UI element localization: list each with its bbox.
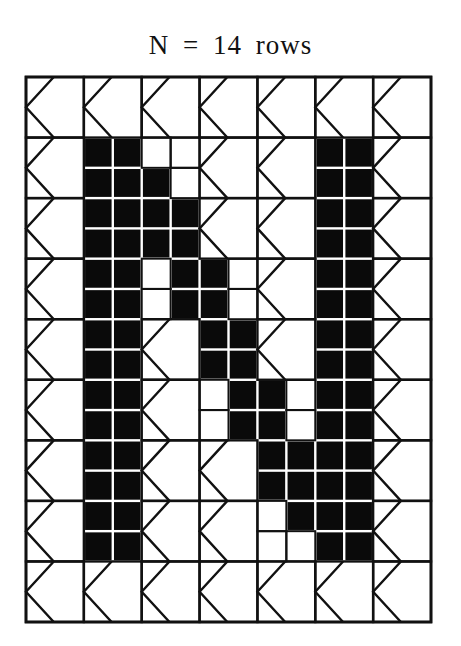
- filled-square: [345, 139, 372, 167]
- chevron-motif: [373, 501, 401, 562]
- empty-square: [286, 410, 315, 440]
- chevron-motif: [257, 138, 285, 199]
- filled-square: [345, 199, 372, 227]
- filled-square: [85, 169, 112, 197]
- grid-cell: [257, 319, 315, 380]
- grid-cell: [200, 77, 258, 138]
- filled-square: [114, 351, 141, 379]
- filled-square: [114, 139, 141, 167]
- grid-cell: [373, 138, 431, 199]
- chevron-motif: [26, 259, 54, 320]
- grid-cell: [257, 198, 315, 259]
- filled-square: [85, 260, 112, 288]
- filled-square: [345, 502, 372, 530]
- filled-square: [114, 230, 141, 258]
- chevron-motif: [373, 198, 401, 259]
- chevron-motif: [200, 440, 228, 501]
- filled-square: [259, 442, 286, 470]
- grid-cell: [373, 319, 431, 380]
- filled-square: [230, 381, 257, 409]
- filled-square: [114, 442, 141, 470]
- empty-square: [286, 531, 315, 561]
- empty-square: [171, 138, 200, 168]
- grid-cell: [142, 501, 200, 562]
- filled-square: [85, 320, 112, 348]
- grid-cell: [142, 77, 200, 138]
- filled-square: [85, 139, 112, 167]
- chevron-motif: [142, 77, 170, 138]
- filled-square: [114, 532, 141, 560]
- filled-square: [85, 351, 112, 379]
- filled-square: [316, 169, 343, 197]
- filled-square: [172, 199, 199, 227]
- chevron-motif: [84, 77, 112, 138]
- grid-cell: [84, 561, 142, 622]
- filled-square: [288, 502, 315, 530]
- grid-cell: [200, 561, 258, 622]
- grid-cell: [257, 259, 315, 320]
- filled-square: [85, 411, 112, 439]
- empty-square: [142, 289, 171, 319]
- filled-square: [345, 472, 372, 500]
- chevron-motif: [257, 259, 285, 320]
- grid-cell: [257, 561, 315, 622]
- grid-cell: [373, 380, 431, 441]
- empty-square: [200, 380, 229, 410]
- filled-square: [345, 290, 372, 318]
- chevron-motif: [315, 77, 343, 138]
- filled-square: [345, 381, 372, 409]
- grid-cell: [142, 561, 200, 622]
- filled-square: [143, 169, 170, 197]
- grid-cell: [142, 440, 200, 501]
- filled-square: [316, 351, 343, 379]
- filled-square: [85, 532, 112, 560]
- filled-square: [230, 351, 257, 379]
- filled-square: [85, 381, 112, 409]
- chevron-motif: [26, 77, 54, 138]
- filled-square: [259, 472, 286, 500]
- empty-square: [229, 259, 258, 289]
- filled-square: [288, 442, 315, 470]
- filled-square: [316, 411, 343, 439]
- filled-square: [316, 199, 343, 227]
- filled-square: [316, 442, 343, 470]
- chevron-motif: [200, 561, 228, 622]
- empty-square: [142, 259, 171, 289]
- filled-square: [316, 139, 343, 167]
- grid-cell: [373, 77, 431, 138]
- filled-square: [85, 472, 112, 500]
- chevron-motif: [142, 319, 170, 380]
- empty-square: [257, 501, 286, 531]
- filled-square: [316, 381, 343, 409]
- empty-square: [286, 380, 315, 410]
- filled-square: [345, 260, 372, 288]
- filled-square: [114, 260, 141, 288]
- chevron-motif: [26, 198, 54, 259]
- grid-cell: [26, 259, 84, 320]
- filled-square: [259, 411, 286, 439]
- grid-cell: [200, 501, 258, 562]
- chevron-motif: [200, 138, 228, 199]
- chevron-motif: [257, 561, 285, 622]
- filled-square: [85, 290, 112, 318]
- filled-square: [345, 320, 372, 348]
- chevron-motif: [26, 440, 54, 501]
- empty-square: [229, 289, 258, 319]
- empty-square: [257, 531, 286, 561]
- chevron-motif: [373, 319, 401, 380]
- filled-square: [85, 442, 112, 470]
- chevron-motif: [373, 440, 401, 501]
- filled-square: [345, 442, 372, 470]
- chevron-motif: [200, 501, 228, 562]
- filled-square: [114, 411, 141, 439]
- chevron-motif: [26, 319, 54, 380]
- filled-square: [114, 381, 141, 409]
- filled-square: [201, 290, 228, 318]
- chevron-motif: [142, 561, 170, 622]
- chevron-motif: [26, 380, 54, 441]
- grid-cell: [200, 198, 258, 259]
- filled-square: [114, 472, 141, 500]
- chevron-motif: [257, 319, 285, 380]
- filled-square: [316, 532, 343, 560]
- empty-square: [200, 410, 229, 440]
